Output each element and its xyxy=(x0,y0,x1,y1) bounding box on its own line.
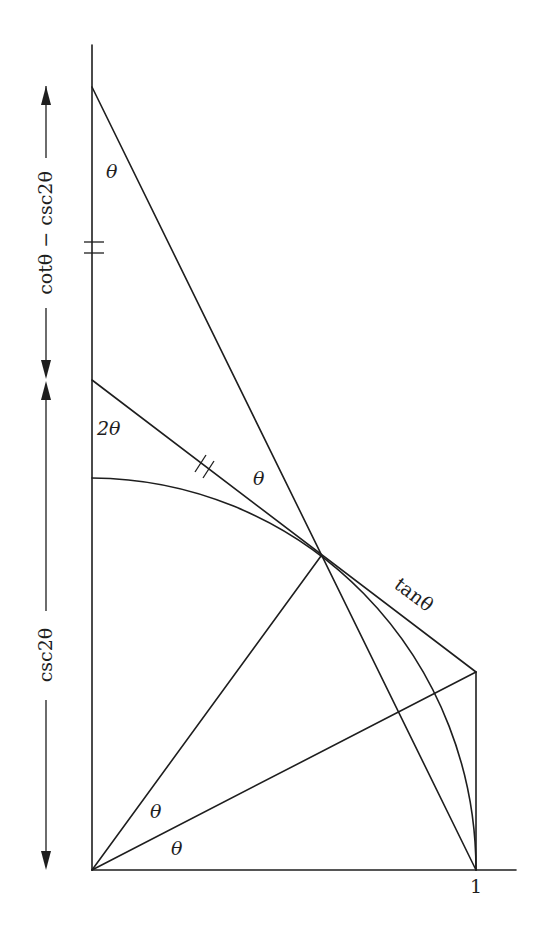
axis-double-tick xyxy=(84,242,104,253)
tan-label: tanθ xyxy=(391,573,438,616)
unit-label: 1 xyxy=(470,875,482,897)
trig-diagram: cotθ − csc2θ csc2θ θ 2θ θ θ θ tanθ 1 xyxy=(0,0,546,941)
lower-dimension-label: csc2θ xyxy=(34,628,56,683)
angle-label-origin-upper: θ xyxy=(150,800,162,822)
angle-label-top: θ xyxy=(106,160,118,182)
angle-label-2theta: 2θ xyxy=(96,417,121,439)
upper-dimension-label: cotθ − csc2θ xyxy=(34,171,56,295)
angle-label-origin-lower: θ xyxy=(171,837,183,859)
cot-line xyxy=(92,87,476,870)
tangent-line xyxy=(92,380,476,672)
radius-to-tangent-point xyxy=(92,556,321,870)
angle-label-tangent: θ xyxy=(253,467,265,489)
origin-to-tan-vertex xyxy=(92,672,476,870)
lower-dimension-arrow xyxy=(41,381,51,870)
